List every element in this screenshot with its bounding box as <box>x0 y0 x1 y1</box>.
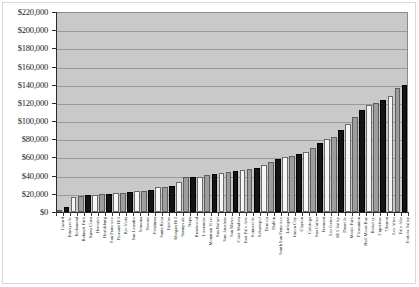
x-axis-tick-label: Corte Madera <box>237 217 242 242</box>
bar-item <box>395 12 401 212</box>
bar-item <box>338 12 344 212</box>
x-axis-tick-label: Brentwood <box>195 217 200 237</box>
x-axis-tick-label: Sonoma <box>139 217 144 232</box>
x-axis-labels: CazardEmeryvilleRichmondRohnert ParkSant… <box>56 217 408 287</box>
bar <box>183 177 189 212</box>
bar <box>296 154 302 212</box>
x-axis-tick-label: Hercules <box>96 217 101 233</box>
bar <box>169 186 175 212</box>
bar-item <box>71 12 77 212</box>
bar-item <box>388 12 394 212</box>
x-axis-tick-label: Calistoga <box>308 217 313 234</box>
bar <box>92 195 98 212</box>
x-axis-tick-label: Larkspur <box>286 217 291 234</box>
bar-item <box>141 12 147 212</box>
bar-item <box>331 12 337 212</box>
bar <box>380 100 386 212</box>
bar <box>120 193 126 212</box>
bar-item <box>169 12 175 212</box>
bar <box>303 152 309 212</box>
x-axis-tick <box>133 212 134 216</box>
bar-item <box>113 12 119 212</box>
y-axis-tick-label: $180,000 <box>18 44 48 53</box>
y-axis-tick-label: $160,000 <box>18 62 48 71</box>
bar-item <box>134 12 140 212</box>
x-axis-tick <box>359 212 360 216</box>
bar <box>176 182 182 212</box>
bar <box>402 85 408 212</box>
bar-item <box>289 12 295 212</box>
x-axis-tick <box>105 212 106 216</box>
bar-item <box>275 12 281 212</box>
x-axis-tick <box>98 212 99 216</box>
bar-item <box>162 12 168 212</box>
bar-item <box>303 12 309 212</box>
x-axis-tick <box>288 212 289 216</box>
x-axis-tick-label: Los Altos <box>392 217 397 235</box>
x-axis-tick-label: Emeryville <box>68 217 73 237</box>
x-axis-tick <box>302 212 303 216</box>
x-axis-tick-label: Union City <box>293 217 298 238</box>
bar-item <box>268 12 274 212</box>
bar <box>240 170 246 212</box>
bar-item <box>57 12 63 212</box>
x-axis-tick <box>232 212 233 216</box>
x-axis-tick-label: Sunnyvale <box>181 217 186 236</box>
bar <box>141 191 147 212</box>
x-axis-tick-label: Menlo Park <box>350 217 355 239</box>
bar-item <box>219 12 225 212</box>
x-axis-tick <box>394 212 395 216</box>
x-axis-tick-label: South San Francisco <box>279 217 284 255</box>
x-axis-tick-label: Berkeley <box>371 217 376 234</box>
x-axis-tick <box>162 212 163 216</box>
bar-item <box>402 12 408 212</box>
x-axis-tick-label: Rohnert Park <box>82 217 87 241</box>
x-axis-tick <box>281 212 282 216</box>
bar <box>324 139 330 212</box>
x-axis-tick <box>84 212 85 216</box>
bar-item <box>261 12 267 212</box>
x-axis-tick-label: Palo Alto <box>399 217 404 234</box>
x-axis-tick-label: San Anselmo <box>223 217 228 241</box>
x-axis-tick <box>176 212 177 216</box>
x-axis-tick-label: Santa Rosa <box>160 217 165 238</box>
bar-item <box>148 12 154 212</box>
x-axis-tick <box>63 212 64 216</box>
bar <box>338 130 344 212</box>
x-axis-tick-label: Rio Vista <box>124 217 129 234</box>
x-axis-tick-label: Cazard <box>61 217 66 230</box>
y-axis-tick-label: $40,000 <box>22 171 48 180</box>
bar <box>127 192 133 212</box>
x-axis-tick <box>225 212 226 216</box>
x-axis-tick <box>56 212 57 216</box>
x-axis-tick-label: Somerville <box>251 217 256 237</box>
bar-item <box>92 12 98 212</box>
x-axis-tick-label: Cupertino <box>378 217 383 235</box>
x-axis-tick-label: Pleasanton <box>357 217 362 237</box>
x-axis-tick <box>338 212 339 216</box>
x-axis-tick <box>401 212 402 216</box>
x-axis-tick-label: Healdsburg <box>103 217 108 238</box>
x-axis-tick <box>70 212 71 216</box>
x-axis-tick <box>246 212 247 216</box>
bar-series <box>56 12 408 212</box>
x-axis-tick-label: Pleasant Hill <box>117 217 122 241</box>
bar <box>247 169 253 212</box>
x-axis-tick <box>309 212 310 216</box>
bar <box>106 194 112 212</box>
bar-item <box>366 12 372 212</box>
bar-item <box>155 12 161 212</box>
x-axis-tick-label: Mill Valley <box>336 217 341 238</box>
x-axis-tick-label: Los Gatos <box>329 217 334 236</box>
y-axis-tick-label: $140,000 <box>18 80 48 89</box>
bar-item <box>183 12 189 212</box>
bar <box>388 96 394 212</box>
bar <box>352 117 358 212</box>
bar-item <box>317 12 323 212</box>
bar <box>275 159 281 212</box>
x-axis-tick <box>140 212 141 216</box>
bar <box>310 148 316 212</box>
bar-item <box>345 12 351 212</box>
x-axis-tick <box>260 212 261 216</box>
bar <box>197 177 203 212</box>
